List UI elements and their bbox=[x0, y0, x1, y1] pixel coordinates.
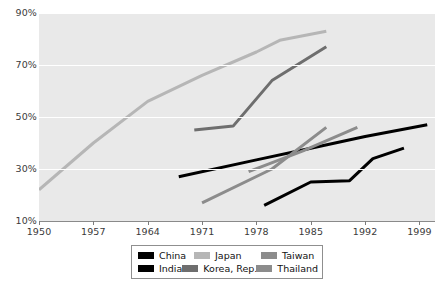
x-tick-mark bbox=[39, 221, 40, 225]
x-tick-label: 1978 bbox=[244, 226, 269, 237]
gridline bbox=[39, 13, 435, 14]
y-tick-label: 10% bbox=[3, 215, 37, 226]
x-tick-label: 1992 bbox=[353, 226, 378, 237]
x-tick-label: 1964 bbox=[135, 226, 160, 237]
x-tick-label: 1971 bbox=[190, 226, 215, 237]
x-tick-mark bbox=[256, 221, 257, 225]
legend-item-korea-rep[interactable]: Korea, Rep. bbox=[182, 263, 256, 274]
x-tick-mark bbox=[365, 221, 366, 225]
legend-label: China bbox=[159, 250, 186, 261]
legend-label: Korea, Rep. bbox=[203, 263, 257, 274]
x-tick-label: 1985 bbox=[298, 226, 323, 237]
legend-swatch-icon bbox=[256, 265, 272, 272]
legend-swatch-icon bbox=[261, 252, 277, 259]
y-tick-label: 50% bbox=[3, 111, 37, 122]
y-tick-label: 90% bbox=[3, 7, 37, 18]
legend-label: Japan bbox=[215, 250, 242, 261]
x-tick-label: 1999 bbox=[407, 226, 432, 237]
legend-label: Thailand bbox=[277, 263, 318, 274]
legend-item-thailand[interactable]: Thailand bbox=[256, 263, 318, 274]
chart-root: 10%30%50%70%90% 195019571964197119781985… bbox=[0, 0, 445, 288]
x-tick-label: 1957 bbox=[81, 226, 106, 237]
legend-label: Taiwan bbox=[282, 250, 314, 261]
legend-swatch-icon bbox=[194, 252, 210, 259]
gridline bbox=[39, 169, 435, 170]
x-tick-mark bbox=[202, 221, 203, 225]
gridline bbox=[39, 65, 435, 66]
legend-swatch-icon bbox=[138, 265, 154, 272]
x-tick-mark bbox=[148, 221, 149, 225]
legend-row: IndiaKorea, Rep.Thailand bbox=[138, 262, 317, 275]
gridline bbox=[39, 117, 435, 118]
legend-label: India bbox=[159, 263, 182, 274]
x-axis: 19501957196419711978198519921999 bbox=[39, 221, 435, 243]
legend-swatch-icon bbox=[182, 265, 198, 272]
y-tick-label: 30% bbox=[3, 163, 37, 174]
x-tick-mark bbox=[419, 221, 420, 225]
legend-item-taiwan[interactable]: Taiwan bbox=[261, 250, 317, 261]
plot-area bbox=[39, 13, 435, 221]
x-tick-label: 1950 bbox=[27, 226, 52, 237]
legend-swatch-icon bbox=[138, 252, 154, 259]
series-line-japan bbox=[39, 31, 326, 190]
legend-row: ChinaJapanTaiwan bbox=[138, 249, 317, 262]
x-tick-mark bbox=[93, 221, 94, 225]
series-line-thailand bbox=[249, 127, 358, 171]
y-tick-label: 70% bbox=[3, 59, 37, 70]
legend-item-india[interactable]: India bbox=[138, 263, 182, 274]
legend-item-japan[interactable]: Japan bbox=[194, 250, 261, 261]
chart-legend: ChinaJapanTaiwanIndiaKorea, Rep.Thailand bbox=[131, 245, 323, 279]
x-tick-mark bbox=[311, 221, 312, 225]
y-axis: 10%30%50%70%90% bbox=[0, 0, 37, 228]
legend-item-china[interactable]: China bbox=[138, 250, 194, 261]
